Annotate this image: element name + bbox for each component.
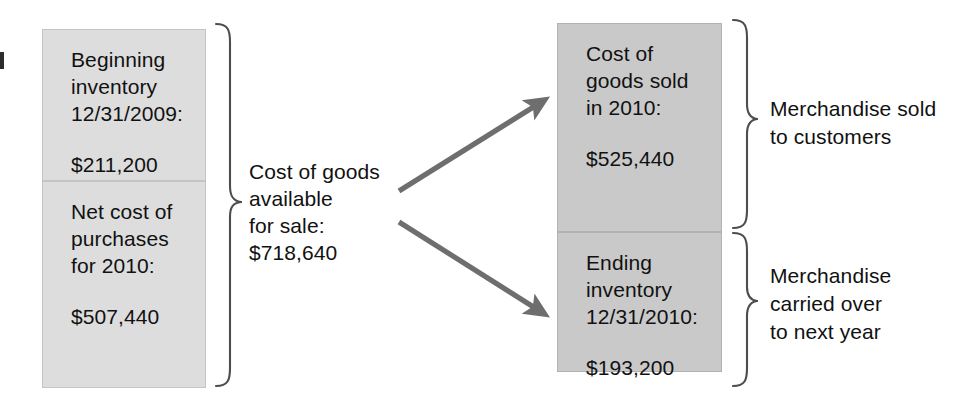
arrow-down-right-icon (399, 222, 543, 313)
arrow-up-right-icon (399, 101, 543, 191)
page-edge-mark (0, 52, 4, 69)
merchandise-carried-over-annotation: Merchandise carried over to next year (770, 262, 891, 346)
cogs-line-2: goods sold (586, 67, 715, 94)
right-curly-brace-bottom-icon (733, 233, 757, 386)
beginning-inventory-text: Beginning inventory 12/31/2009: $211,200 (71, 46, 199, 178)
cogs-line-3: in 2010: (586, 94, 715, 121)
beginning-inventory-line-1: Beginning (71, 46, 199, 73)
sold-line-1: Merchandise sold (770, 95, 936, 123)
ending-inventory-line-3: 12/31/2010: (586, 303, 715, 330)
cogs-amount: $525,440 (586, 145, 715, 172)
carried-line-3: to next year (770, 318, 891, 346)
ending-inventory-text: Ending inventory 12/31/2010: $193,200 (586, 249, 715, 381)
net-cost-line-3: for 2010: (71, 252, 199, 279)
beginning-inventory-line-3: 12/31/2009: (71, 100, 199, 127)
cogs-line-1: Cost of (586, 40, 715, 67)
cost-of-goods-available-label: Cost of goods available for sale: $718,6… (249, 158, 380, 266)
cost-of-goods-sold-text: Cost of goods sold in 2010: $525,440 (586, 40, 715, 172)
beginning-inventory-line-2: inventory (71, 73, 199, 100)
net-cost-line-1: Net cost of (71, 198, 199, 225)
center-line-1: Cost of goods (249, 158, 380, 185)
net-cost-line-2: purchases (71, 225, 199, 252)
carried-line-1: Merchandise (770, 262, 891, 290)
left-curly-brace-icon (216, 24, 241, 386)
ending-inventory-amount: $193,200 (586, 354, 715, 381)
center-line-2: available (249, 185, 380, 212)
cogs-flow-diagram: Beginning inventory 12/31/2009: $211,200… (0, 0, 967, 416)
net-cost-amount: $507,440 (71, 303, 199, 330)
beginning-inventory-box: Beginning inventory 12/31/2009: $211,200 (42, 29, 206, 181)
ending-inventory-line-1: Ending (586, 249, 715, 276)
ending-inventory-box: Ending inventory 12/31/2010: $193,200 (557, 232, 722, 372)
cost-of-goods-sold-box: Cost of goods sold in 2010: $525,440 (557, 23, 722, 232)
net-cost-of-purchases-text: Net cost of purchases for 2010: $507,440 (71, 198, 199, 330)
beginning-inventory-amount: $211,200 (71, 151, 199, 178)
center-amount: $718,640 (249, 239, 380, 266)
ending-inventory-line-2: inventory (586, 276, 715, 303)
net-cost-of-purchases-box: Net cost of purchases for 2010: $507,440 (42, 181, 206, 388)
center-line-3: for sale: (249, 212, 380, 239)
merchandise-sold-annotation: Merchandise sold to customers (770, 95, 936, 151)
sold-line-2: to customers (770, 123, 936, 151)
carried-line-2: carried over (770, 290, 891, 318)
right-curly-brace-top-icon (733, 20, 757, 228)
